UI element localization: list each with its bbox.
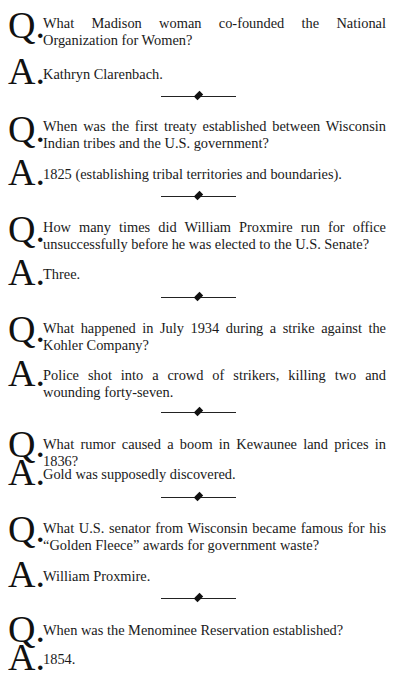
q-label: Q. bbox=[8, 310, 45, 348]
diamond-ornament-icon bbox=[194, 91, 203, 100]
section-divider bbox=[161, 92, 236, 102]
diamond-ornament-icon bbox=[194, 191, 203, 200]
diamond-ornament-icon bbox=[194, 593, 203, 602]
section-divider bbox=[161, 594, 236, 604]
a-label: A. bbox=[8, 52, 45, 90]
q-label: Q. bbox=[8, 110, 45, 148]
answer-text: 1825 (establishing tribal territories an… bbox=[43, 166, 386, 183]
diamond-ornament-icon bbox=[194, 492, 203, 501]
section-divider bbox=[161, 493, 236, 503]
a-label: A. bbox=[8, 354, 45, 392]
question-text: What U.S. senator from Wisconsin became … bbox=[43, 520, 386, 554]
q-label: Q. bbox=[8, 6, 45, 44]
diamond-ornament-icon bbox=[194, 407, 203, 416]
question-text: What rumor caused a boom in Kewaunee lan… bbox=[43, 436, 386, 470]
a-label: A. bbox=[8, 453, 45, 491]
question-text: How many times did William Proxmire run … bbox=[43, 219, 386, 253]
a-label: A. bbox=[8, 253, 45, 291]
q-label: Q. bbox=[8, 510, 45, 548]
answer-text: Kathryn Clarenbach. bbox=[43, 66, 386, 83]
question-text: What happened in July 1934 during a stri… bbox=[43, 320, 386, 354]
answer-text: 1854. bbox=[43, 651, 386, 668]
diamond-ornament-icon bbox=[194, 292, 203, 301]
answer-text: Gold was supposedly discovered. bbox=[43, 466, 386, 483]
section-divider bbox=[161, 293, 236, 303]
a-label: A. bbox=[8, 153, 45, 191]
q-label: Q. bbox=[8, 210, 45, 248]
question-text: When was the Menominee Reservation estab… bbox=[43, 622, 386, 639]
question-text: What Madison woman co-founded the Nation… bbox=[43, 15, 386, 49]
answer-text: Police shot into a crowd of strikers, ki… bbox=[43, 367, 386, 401]
answer-text: William Proxmire. bbox=[43, 568, 386, 585]
section-divider bbox=[161, 408, 236, 418]
question-text: When was the first treaty established be… bbox=[43, 118, 386, 152]
answer-text: Three. bbox=[43, 266, 386, 283]
section-divider bbox=[161, 192, 236, 202]
a-label: A. bbox=[8, 638, 45, 676]
a-label: A. bbox=[8, 555, 45, 593]
